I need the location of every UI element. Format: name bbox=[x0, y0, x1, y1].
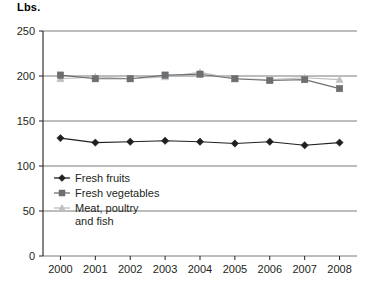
x-tick-label: 2006 bbox=[258, 263, 282, 275]
x-axis-tick-labels: 200020012002200320042005200620072008 bbox=[48, 263, 352, 275]
data-point-marker bbox=[127, 138, 134, 145]
data-series-lines bbox=[60, 72, 339, 145]
data-point-marker bbox=[92, 139, 99, 146]
legend-label: Fresh vegetables bbox=[75, 187, 160, 199]
data-point-marker bbox=[266, 138, 273, 145]
y-tick-label: 100 bbox=[17, 160, 35, 172]
y-axis-ticks bbox=[39, 31, 43, 256]
chart-legend: Fresh fruitsFresh vegetablesMeat, poultr… bbox=[54, 172, 160, 227]
x-tick-label: 2005 bbox=[223, 263, 247, 275]
x-axis-ticks bbox=[60, 256, 339, 260]
x-tick-label: 2008 bbox=[327, 263, 351, 275]
data-point-marker bbox=[59, 190, 65, 196]
x-tick-label: 2000 bbox=[48, 263, 72, 275]
x-tick-label: 2004 bbox=[188, 263, 212, 275]
data-series-markers bbox=[57, 69, 343, 149]
data-point-marker bbox=[196, 138, 203, 145]
line-chart-plot: 050100150200250 200020012002200320042005… bbox=[0, 0, 369, 289]
data-point-marker bbox=[197, 71, 203, 77]
data-point-marker bbox=[301, 76, 307, 82]
data-point-marker bbox=[162, 72, 168, 78]
x-tick-label: 2007 bbox=[292, 263, 316, 275]
data-point-marker bbox=[57, 134, 64, 141]
data-point-marker bbox=[59, 175, 66, 182]
data-point-marker bbox=[161, 137, 168, 144]
data-point-marker bbox=[301, 142, 308, 149]
y-tick-label: 50 bbox=[23, 205, 35, 217]
x-tick-label: 2001 bbox=[83, 263, 107, 275]
data-point-marker bbox=[232, 76, 238, 82]
data-point-marker bbox=[267, 77, 273, 83]
x-tick-label: 2002 bbox=[118, 263, 142, 275]
legend-label-line2: and fish bbox=[75, 215, 114, 227]
data-point-marker bbox=[127, 76, 133, 82]
data-point-marker bbox=[92, 76, 98, 82]
legend-label: Fresh fruits bbox=[75, 172, 131, 184]
legend-label: Meat, poultry bbox=[75, 202, 139, 214]
y-tick-label: 200 bbox=[17, 70, 35, 82]
x-tick-label: 2003 bbox=[153, 263, 177, 275]
y-tick-label: 250 bbox=[17, 25, 35, 37]
chart-container: Lbs. 050100150200250 2000200120022003200… bbox=[0, 0, 369, 289]
data-point-marker bbox=[336, 85, 342, 91]
y-tick-label: 0 bbox=[29, 250, 35, 262]
data-point-marker bbox=[57, 72, 63, 78]
y-axis-tick-labels: 050100150200250 bbox=[17, 25, 35, 262]
data-point-marker bbox=[231, 140, 238, 147]
data-point-marker bbox=[336, 139, 343, 146]
y-tick-label: 150 bbox=[17, 115, 35, 127]
